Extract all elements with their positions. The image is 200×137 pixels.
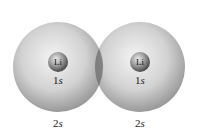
right-atom-symbol: Li: [136, 57, 144, 67]
left-2s-label: 2s: [53, 117, 63, 129]
right-2s-label: 2s: [135, 117, 145, 129]
orbital-graphic: [0, 0, 200, 137]
right-1s-label: 1s: [135, 74, 145, 86]
li2-orbital-overlap-diagram: Li Li 1s 1s 2s 2s: [0, 0, 200, 137]
left-atom-symbol: Li: [54, 57, 62, 67]
left-1s-label: 1s: [53, 74, 63, 86]
